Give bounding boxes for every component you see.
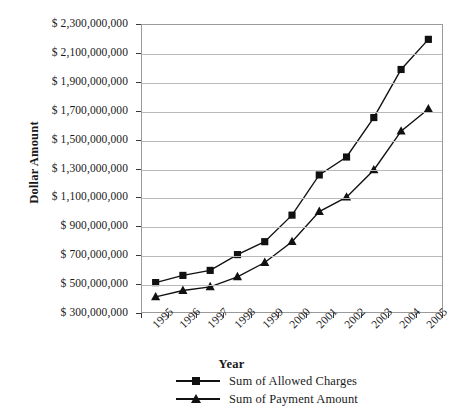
data-point-marker [398, 66, 405, 73]
gridline [142, 83, 442, 84]
y-axis-tick [136, 255, 141, 256]
y-axis-tick-labels: $ 2,300,000,000$ 2,100,000,000$ 1,900,00… [0, 0, 134, 340]
gridline [142, 170, 442, 171]
series-canvas [142, 25, 442, 312]
data-point-marker [207, 267, 214, 274]
y-axis-tick-label: $ 2,300,000,000 [52, 18, 128, 29]
x-axis-tick [333, 313, 334, 318]
y-axis-tick-label: $ 900,000,000 [61, 220, 128, 231]
legend-marker-triangle-icon [176, 392, 220, 406]
gridline [142, 227, 442, 228]
legend-label: Sum of Allowed Charges [229, 374, 357, 389]
data-point-marker [261, 238, 268, 245]
chart-legend: Sum of Allowed ChargesSum of Payment Amo… [0, 372, 463, 408]
line-chart: Dollar Amount $ 2,300,000,000$ 2,100,000… [0, 0, 463, 414]
y-axis-tick-label: $ 700,000,000 [61, 249, 128, 260]
y-axis-tick [136, 24, 141, 25]
plot-area [141, 24, 443, 313]
gridline [142, 112, 442, 113]
x-axis-tick [168, 313, 169, 318]
y-axis-tick [136, 111, 141, 112]
series-line-2 [156, 109, 429, 297]
y-axis-tick [136, 53, 141, 54]
x-axis-title: Year [0, 357, 463, 372]
legend-item-2[interactable]: Sum of Payment Amount [0, 390, 463, 408]
gridline [142, 54, 442, 55]
data-point-marker [260, 257, 269, 265]
y-axis-tick-label: $ 1,100,000,000 [52, 191, 128, 202]
data-point-marker [315, 207, 324, 215]
x-axis-tick [141, 313, 142, 318]
x-axis-tick [306, 313, 307, 318]
x-axis-tick [442, 313, 443, 318]
y-axis-tick [136, 284, 141, 285]
y-axis-tick [136, 226, 141, 227]
y-axis-tick-label: $ 1,500,000,000 [52, 134, 128, 145]
y-axis-tick-label: $ 1,900,000,000 [52, 76, 128, 87]
data-point-marker [179, 272, 186, 279]
legend-marker-square-icon [176, 374, 220, 388]
legend-label: Sum of Payment Amount [229, 392, 358, 407]
data-point-marker [425, 36, 432, 43]
gridline [142, 256, 442, 257]
y-axis-tick-label: $ 1,700,000,000 [52, 105, 128, 116]
x-axis-tick [416, 313, 417, 318]
x-axis-tick [388, 313, 389, 318]
gridline [142, 285, 442, 286]
y-axis-tick-label: $ 500,000,000 [61, 278, 128, 289]
y-axis-tick [136, 197, 141, 198]
data-point-marker [397, 126, 406, 134]
y-axis-tick [136, 82, 141, 83]
gridline [142, 141, 442, 142]
x-axis-tick [361, 313, 362, 318]
legend-item-1[interactable]: Sum of Allowed Charges [0, 372, 463, 390]
y-axis-tick [136, 140, 141, 141]
x-axis-tick-labels: 1995199619971998199920002001200220032004… [0, 316, 463, 360]
data-point-marker [288, 212, 295, 219]
y-axis-tick [136, 169, 141, 170]
x-axis-tick [251, 313, 252, 318]
x-axis-tick [196, 313, 197, 318]
data-point-marker [233, 272, 242, 280]
gridline [142, 198, 442, 199]
series-line-1 [156, 39, 429, 282]
data-point-marker [316, 171, 323, 178]
y-axis-tick-label: $ 1,300,000,000 [52, 163, 128, 174]
y-axis-tick-label: $ 2,100,000,000 [52, 47, 128, 58]
x-axis-tick [278, 313, 279, 318]
data-point-marker [343, 153, 350, 160]
data-point-marker [370, 114, 377, 121]
x-axis-tick [223, 313, 224, 318]
